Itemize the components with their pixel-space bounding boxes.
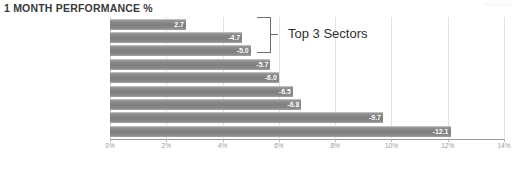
page-title: 1 MONTH PERFORMANCE % [4, 2, 153, 14]
bar-value-label: -6.0 [255, 72, 277, 83]
top3-bracket-stem [270, 34, 278, 35]
bar-value-label: -5.0 [227, 45, 249, 56]
x-tick-label: 14% [497, 142, 510, 149]
chart-row: Financial-6.8 [110, 99, 504, 110]
bar[interactable] [110, 72, 279, 83]
gridline [504, 17, 505, 139]
x-tick-label: 12% [441, 142, 454, 149]
bar-value-label: 2.7 [162, 19, 184, 30]
x-tick-label: 4% [218, 142, 227, 149]
x-tick-label: 0% [105, 142, 114, 149]
x-tick-label: 6% [274, 142, 283, 149]
chart-row: Consumer Goods-5.7 [110, 59, 504, 70]
bar[interactable] [110, 112, 383, 123]
bar[interactable] [110, 126, 451, 137]
bar[interactable] [110, 86, 293, 97]
bar[interactable] [110, 99, 301, 110]
bar-value-label: -5.7 [246, 59, 268, 70]
top3-bracket [257, 17, 271, 53]
x-tick-label: 10% [385, 142, 398, 149]
chart-row: Conglomerates-9.7 [110, 112, 504, 123]
bar-value-label: -6.5 [269, 86, 291, 97]
bar-value-label: -9.7 [359, 112, 381, 123]
bar-value-label: -4.7 [218, 32, 240, 43]
x-tick-label: 8% [330, 142, 339, 149]
x-axis-line [110, 139, 504, 140]
chart-row: Technology-5.0 [110, 45, 504, 56]
watermark: finviz.com [484, 1, 511, 7]
chart-container: 1 MONTH PERFORMANCE % finviz.com Utiliti… [0, 0, 515, 186]
bar-value-label: -6.8 [277, 99, 299, 110]
chart-row: Services-6.0 [110, 72, 504, 83]
chart-row: Basic Materials-12.1 [110, 126, 504, 137]
x-tick-label: 2% [162, 142, 171, 149]
chart-row: Industrial Goods-6.5 [110, 86, 504, 97]
bar-value-label: -12.1 [427, 126, 449, 137]
top3-annotation-label: Top 3 Sectors [288, 26, 368, 41]
